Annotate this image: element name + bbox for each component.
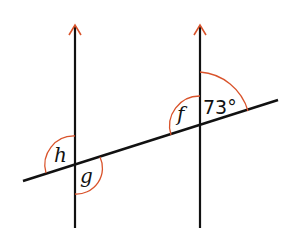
diagram: h g f 73° <box>0 0 294 244</box>
diagram-svg: h g f 73° <box>0 0 294 244</box>
label-h: h <box>54 143 67 167</box>
label-73-degrees: 73° <box>203 96 237 118</box>
label-g: g <box>80 164 93 188</box>
label-f: f <box>175 102 188 126</box>
transversal-line <box>23 100 278 181</box>
left-parallel-line <box>69 25 81 228</box>
